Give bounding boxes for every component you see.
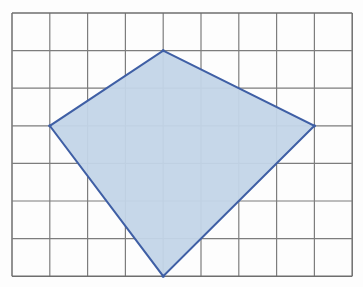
bottom-vertex — [162, 275, 165, 278]
figure-svg-root — [0, 0, 363, 287]
right-vertex — [313, 124, 316, 127]
left-vertex — [48, 124, 51, 127]
geometry-figure — [0, 0, 363, 287]
top-vertex — [162, 49, 165, 52]
kite-shape[interactable] — [50, 51, 315, 277]
